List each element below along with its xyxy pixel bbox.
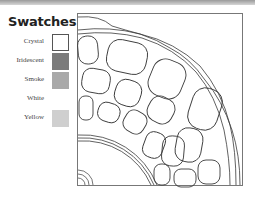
pattern-drawing: [0, 0, 255, 199]
pattern-frame: [78, 14, 243, 186]
